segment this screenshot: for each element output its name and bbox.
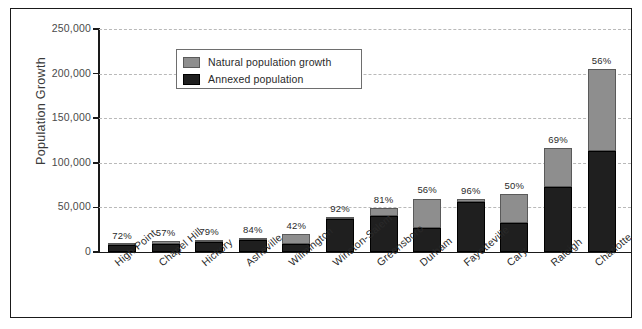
legend-swatch-natural-icon: [183, 57, 200, 68]
chart-frame: 250,000200,000150,000100,00050,0000 Popu…: [10, 8, 632, 318]
gridline: [99, 29, 631, 30]
bar-segment-annexed[interactable]: [588, 151, 616, 252]
bar-value-label: 56%: [574, 55, 630, 66]
gridline: [99, 118, 631, 119]
bar-value-label: 42%: [268, 220, 324, 231]
bar-group[interactable]: [544, 148, 572, 252]
y-tick-label: 200,000: [15, 67, 91, 79]
bar-group[interactable]: [500, 194, 528, 252]
y-tick-label: 0: [15, 245, 91, 257]
y-tick-label: 100,000: [15, 156, 91, 168]
chart-legend: Natural population growth Annexed popula…: [176, 49, 362, 89]
y-tick-label: 150,000: [15, 111, 91, 123]
bar-segment-natural-growth[interactable]: [500, 194, 528, 223]
legend-item-natural: Natural population growth: [183, 54, 355, 70]
y-tick-mark: [93, 117, 99, 119]
bar-value-label: 81%: [356, 194, 412, 205]
y-tick-mark: [93, 162, 99, 164]
legend-swatch-annexed-icon: [183, 74, 200, 85]
legend-item-annexed: Annexed population: [183, 71, 355, 87]
y-tick-label: 250,000: [15, 22, 91, 34]
y-tick-label: 50,000: [15, 200, 91, 212]
y-tick-mark: [93, 28, 99, 30]
y-axis-title: Population Growth: [34, 26, 48, 196]
bar-value-label: 69%: [530, 134, 586, 145]
bar-group[interactable]: [588, 69, 616, 252]
y-tick-mark: [93, 207, 99, 209]
bar-segment-natural-growth[interactable]: [588, 69, 616, 151]
y-tick-mark: [93, 73, 99, 75]
y-tick-mark: [93, 251, 99, 253]
y-axis-tick-labels: 250,000200,000150,000100,00050,0000: [11, 9, 91, 329]
legend-label-annexed: Annexed population: [208, 73, 304, 85]
bar-segment-natural-growth[interactable]: [544, 148, 572, 187]
bar-value-label: 50%: [486, 180, 542, 191]
legend-label-natural: Natural population growth: [208, 56, 331, 68]
